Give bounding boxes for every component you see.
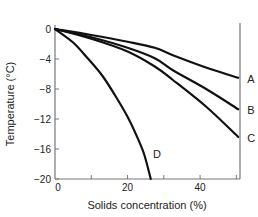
series-group (55, 29, 238, 179)
x-tick-label: 40 (195, 182, 207, 193)
y-tick-label: −20 (34, 174, 51, 185)
y-tick-label: −12 (34, 114, 51, 125)
y-tick-label: 0 (45, 24, 51, 35)
y-axis-label: Temperature (°C) (4, 62, 16, 146)
chart-svg: 0−4−8−12−16−2002040 ABCD Solids concentr… (0, 0, 258, 217)
y-tick-label: −8 (40, 84, 52, 95)
curve-label-c: C (247, 132, 255, 144)
curve-label-a: A (247, 73, 255, 85)
y-tick-label: −16 (34, 144, 51, 155)
x-tick-label: 0 (55, 182, 61, 193)
x-axis-label: Solids concentration (%) (87, 199, 206, 211)
freezing-curve-chart: 0−4−8−12−16−2002040 ABCD Solids concentr… (0, 0, 258, 217)
curve-label-d: D (153, 148, 161, 160)
curve-label-b: B (247, 104, 254, 116)
x-tick-label: 20 (122, 182, 134, 193)
y-tick-label: −4 (40, 54, 52, 65)
